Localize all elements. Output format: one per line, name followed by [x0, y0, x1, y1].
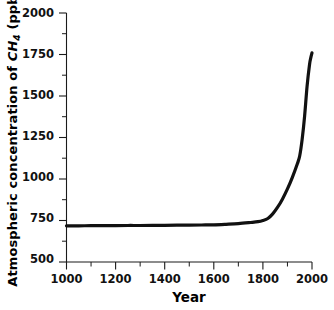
- y-axis-title: Atmospheric concentration of CH4 (ppb): [5, 0, 22, 287]
- y-major-ticks: [59, 13, 67, 262]
- y-axis-title-species-sub: 4: [12, 34, 22, 41]
- x-minor-ticks: [91, 262, 287, 267]
- y-tick-label-1250: 1250: [22, 129, 54, 143]
- y-axis-title-units: (ppb): [5, 0, 20, 34]
- data-series-ch4-line: [67, 53, 313, 226]
- chart-svg: Atmospheric concentration of CH4 (ppb) 2…: [0, 0, 334, 310]
- svg-text:Atmospheric concentration of C: Atmospheric concentration of CH4 (ppb): [5, 0, 22, 287]
- y-tick-label-1750: 1750: [22, 47, 54, 61]
- x-axis-title: Year: [171, 289, 206, 305]
- y-axis-title-species: CH: [5, 41, 20, 62]
- y-tick-label-1500: 1500: [22, 88, 54, 102]
- y-axis-title-prefix: Atmospheric concentration of: [5, 61, 20, 286]
- x-tick-label-1400: 1400: [149, 272, 181, 286]
- y-tick-label-2000: 2000: [22, 6, 54, 20]
- x-tick-label-1200: 1200: [100, 272, 132, 286]
- y-tick-label-500: 500: [30, 252, 54, 266]
- y-tick-label-750: 750: [30, 211, 54, 225]
- x-tick-labels: 1000 1200 1400 1600 1800 2000: [50, 272, 328, 286]
- x-tick-label-1600: 1600: [198, 272, 230, 286]
- x-tick-label-1000: 1000: [50, 272, 82, 286]
- y-tick-label-1000: 1000: [22, 170, 54, 184]
- y-tick-labels: 2000 1750 1500 1250 1000 750 500: [22, 6, 54, 266]
- chart-figure: Atmospheric concentration of CH4 (ppb) 2…: [0, 0, 334, 310]
- x-tick-label-1800: 1800: [247, 272, 279, 286]
- x-tick-label-2000: 2000: [296, 272, 328, 286]
